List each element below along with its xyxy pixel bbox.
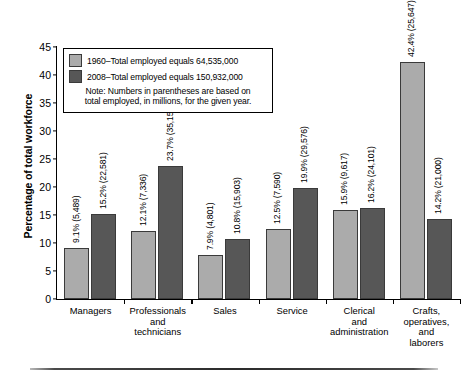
bar-2008-0: 15.2% (22,581)	[91, 214, 116, 299]
x-axis-tick-mark	[191, 299, 192, 304]
x-axis-tick-mark	[124, 299, 125, 304]
legend-swatch-2008-icon	[69, 70, 82, 83]
bar-value-label: 9.1% (5,489)	[71, 196, 81, 243]
legend-label-2008: 2008–Total employed equals 150,932,000	[87, 72, 243, 82]
x-axis-tick-mark	[259, 299, 260, 304]
bar-value-label: 10.8% (15,903)	[232, 177, 242, 234]
bar-value-label: 19.9% (29,576)	[299, 126, 309, 183]
bar-group: 15.9% (9,617)16.2% (24,101)	[326, 47, 393, 299]
bar-value-label: 12.1% (7,336)	[138, 174, 148, 226]
bar-1960-4: 15.9% (9,617)	[333, 210, 358, 299]
category-label-line: technicians	[98, 327, 218, 338]
bar-value-label: 12.5% (7,590)	[272, 172, 282, 224]
bar-chart: Percentage of total workforce 0510152025…	[0, 0, 467, 379]
bar-value-label: 15.9% (9,617)	[340, 153, 350, 205]
bar-1960-0: 9.1% (5,489)	[64, 248, 89, 299]
category-label-line: operatives,	[366, 317, 467, 328]
bar-group: 42.4% (25,647)14.2% (21,000)	[393, 47, 460, 299]
bar-1960-5: 42.4% (25,647)	[400, 62, 425, 299]
legend-swatch-1960-icon	[69, 54, 82, 67]
footer-divider	[30, 368, 438, 370]
x-axis-tick-mark	[326, 299, 327, 304]
bar-1960-2: 7.9% (4,801)	[198, 255, 223, 299]
x-axis-category-label: Crafts,operatives,andlaborers	[366, 306, 467, 348]
legend-item-2008: 2008–Total employed equals 150,932,000	[69, 70, 267, 83]
bar-value-label: 23.7% (35,150)	[165, 105, 175, 162]
bar-2008-5: 14.2% (21,000)	[427, 219, 452, 299]
bar-2008-2: 10.8% (15,903)	[225, 239, 250, 299]
legend-label-1960: 1960–Total employed equals 64,535,000	[87, 56, 238, 66]
bar-value-label: 14.2% (21,000)	[434, 158, 444, 215]
chart-legend: 1960–Total employed equals 64,535,000 20…	[63, 48, 273, 113]
x-axis-tick-mark	[393, 299, 394, 304]
bar-1960-3: 12.5% (7,590)	[266, 229, 291, 299]
x-axis-tick-mark	[460, 299, 461, 304]
y-axis-title: Percentage of total workforce	[22, 66, 34, 266]
legend-note-line-2: total employed, in millions, for the giv…	[69, 96, 267, 106]
bar-2008-3: 19.9% (29,576)	[293, 188, 318, 299]
legend-note-line-1: Note: Numbers in parentheses are based o…	[69, 86, 267, 96]
bar-value-label: 16.2% (24,101)	[367, 147, 377, 204]
bar-value-label: 42.4% (25,647)	[407, 0, 417, 57]
bar-2008-4: 16.2% (24,101)	[360, 208, 385, 299]
bar-2008-1: 23.7% (35,150)	[158, 166, 183, 299]
legend-item-1960: 1960–Total employed equals 64,535,000	[69, 54, 267, 67]
category-label-line: Crafts,	[366, 306, 467, 317]
category-label-line: laborers	[366, 338, 467, 349]
bar-value-label: 7.9% (4,801)	[205, 202, 215, 249]
bar-1960-1: 12.1% (7,336)	[131, 231, 156, 299]
bar-value-label: 15.2% (22,581)	[98, 152, 108, 209]
